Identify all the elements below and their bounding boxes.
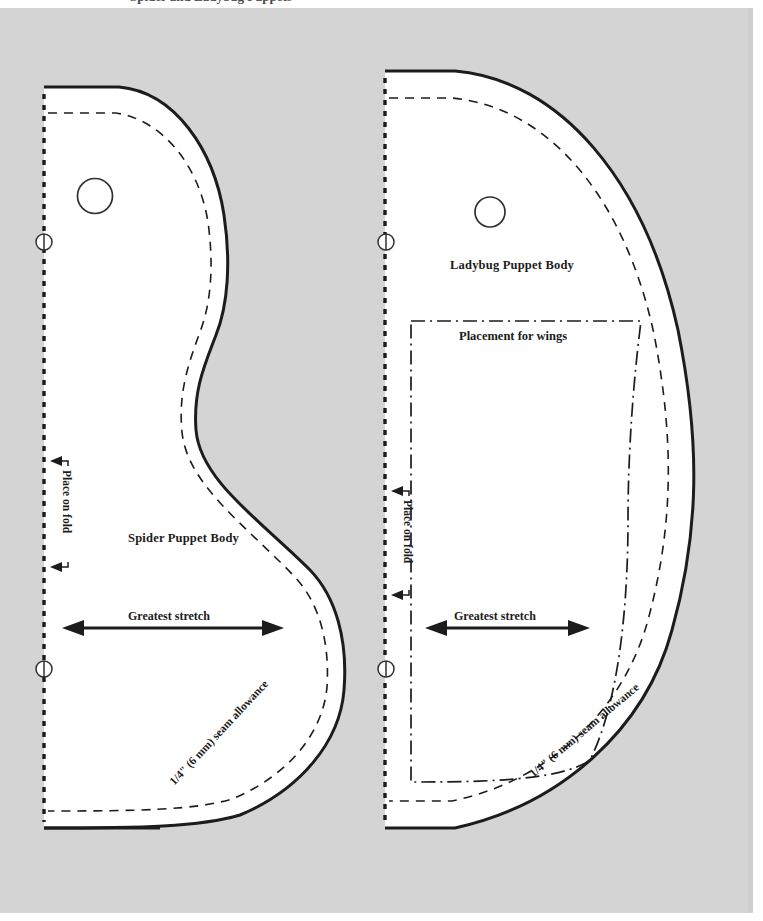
ladybug-greatest-stretch-label: Greatest stretch [454, 609, 536, 624]
spider-pattern-piece [36, 87, 345, 828]
spider-body-fill [44, 87, 345, 828]
spider-notch-bottom [36, 661, 52, 677]
spider-place-on-fold-label: Place on fold [73, 470, 136, 482]
spider-seam-allowance-label: 1/4" (6 mm) seam allowance [167, 779, 306, 791]
ladybug-notch-top [378, 234, 394, 250]
ladybug-seam-allowance-label: 1/4" (6 mm) seam allowance [527, 770, 666, 782]
pattern-sheet: Spider and Ladybug Puppets [0, 0, 763, 921]
ladybug-pattern-piece [378, 71, 694, 828]
pattern-artwork [0, 0, 763, 921]
spider-notch-top [36, 234, 52, 250]
ladybug-body-fill [385, 71, 694, 828]
ladybug-title-label: Ladybug Puppet Body [450, 258, 574, 273]
spider-title-label: Spider Puppet Body [128, 531, 239, 546]
ladybug-place-on-fold-label: Place on fold [414, 500, 477, 512]
ladybug-notch-bottom [378, 661, 394, 677]
spider-greatest-stretch-label: Greatest stretch [128, 609, 210, 624]
ladybug-wings-label: Placement for wings [459, 329, 567, 344]
